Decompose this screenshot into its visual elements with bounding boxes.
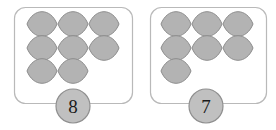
count-badge-label: 7 [201, 96, 211, 117]
count-group: 7 [151, 8, 267, 124]
scene-svg: 87 [0, 0, 276, 130]
count-badge-label: 8 [68, 96, 78, 117]
counting-groups-illustration: 87 [0, 0, 276, 130]
count-group: 8 [15, 8, 133, 124]
